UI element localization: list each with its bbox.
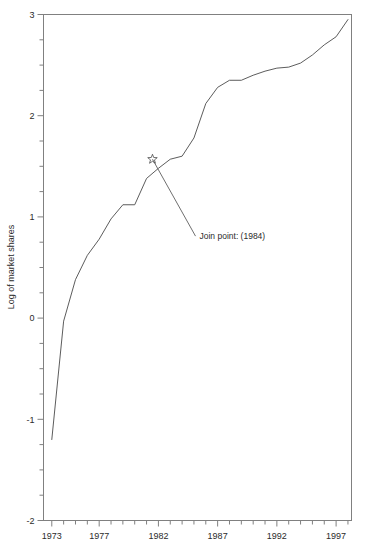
x-tick-label: 1987 bbox=[208, 531, 228, 541]
y-tick-label: 2 bbox=[29, 111, 34, 121]
y-tick-label: 0 bbox=[29, 313, 34, 323]
y-tick-label: 1 bbox=[29, 212, 34, 222]
chart-background bbox=[0, 0, 365, 560]
y-tick-label: 3 bbox=[29, 10, 34, 20]
line-chart: 3210-1-2 197319771982198719921997 Log of… bbox=[0, 0, 365, 560]
y-axis-title: Log of market shares bbox=[6, 224, 16, 309]
annotation-label: Join point: (1984) bbox=[200, 231, 266, 241]
y-tick-label: -2 bbox=[26, 516, 34, 526]
x-tick-label: 1992 bbox=[267, 531, 287, 541]
x-tick-label: 1982 bbox=[148, 531, 168, 541]
x-tick-label: 1973 bbox=[42, 531, 62, 541]
y-tick-label: -1 bbox=[26, 415, 34, 425]
chart-figure: 3210-1-2 197319771982198719921997 Log of… bbox=[0, 0, 365, 560]
x-tick-label: 1997 bbox=[326, 531, 346, 541]
x-tick-label: 1977 bbox=[89, 531, 109, 541]
